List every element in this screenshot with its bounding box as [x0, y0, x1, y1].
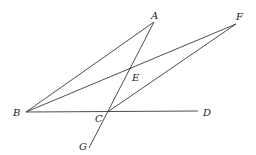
- segment-BF: [26, 24, 236, 112]
- segment-AG: [89, 22, 154, 148]
- segment-FC: [109, 24, 236, 111]
- segment-BD: [26, 111, 198, 112]
- label-F: F: [235, 11, 244, 22]
- geometry-diagram: A F B C E D G: [0, 0, 256, 155]
- label-B: B: [12, 107, 20, 118]
- label-C: C: [95, 113, 103, 124]
- label-A: A: [150, 10, 158, 21]
- label-G: G: [79, 141, 87, 152]
- segments: [26, 22, 236, 148]
- point-labels: A F B C E D G: [12, 10, 244, 152]
- label-D: D: [202, 107, 211, 118]
- segment-BA: [26, 22, 154, 112]
- label-E: E: [131, 72, 140, 83]
